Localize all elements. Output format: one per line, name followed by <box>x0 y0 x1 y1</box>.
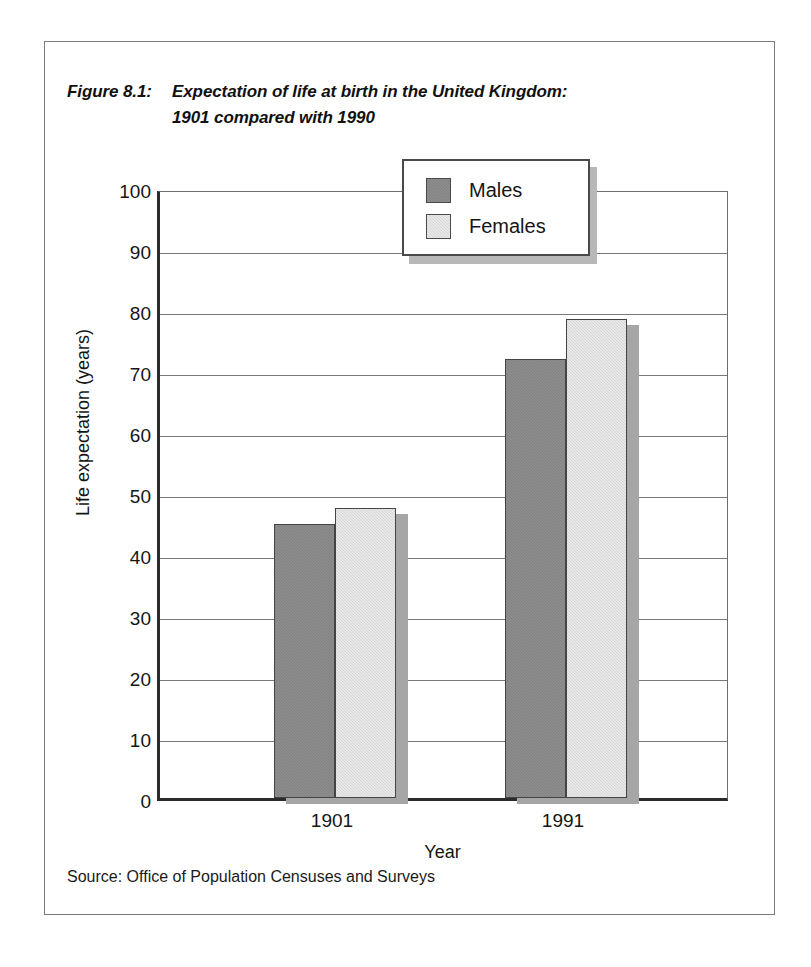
figure-frame: Figure 8.1:Expectation of life at birth … <box>44 41 775 915</box>
y-axis-tick-labels: 1009080706050403020100 <box>93 191 151 801</box>
x-axis-tick-label: 1901 <box>252 810 412 832</box>
y-axis-tick-label: 80 <box>99 304 151 323</box>
bar-females-1901 <box>335 508 396 798</box>
y-axis-tick-label: 20 <box>99 670 151 689</box>
y-axis-tick-label: 0 <box>99 792 151 811</box>
source-note: Source: Office of Population Censuses an… <box>67 868 435 886</box>
bar-females-1991 <box>566 319 627 798</box>
legend-item-females: Females <box>426 208 588 244</box>
x-axis-title: Year <box>157 842 728 863</box>
gridline <box>160 680 727 681</box>
gridline <box>160 497 727 498</box>
gridline <box>160 619 727 620</box>
legend-item-males: Males <box>426 172 588 208</box>
y-axis-tick-label: 30 <box>99 609 151 628</box>
bar-males-1901 <box>274 524 335 799</box>
y-axis-tick-label: 100 <box>99 182 151 201</box>
y-axis-title: Life expectation (years) <box>73 278 94 568</box>
y-axis-tick-label: 10 <box>99 731 151 750</box>
legend: MalesFemales <box>402 159 590 256</box>
y-axis-tick-label: 50 <box>99 487 151 506</box>
y-axis-tick-label: 60 <box>99 426 151 445</box>
legend-swatch-icon <box>426 214 451 239</box>
bar-males-1991 <box>505 359 566 798</box>
chart-plot: 1009080706050403020100 Life expectation … <box>45 42 776 916</box>
gridline <box>160 436 727 437</box>
gridline <box>160 375 727 376</box>
gridline <box>160 741 727 742</box>
legend-swatch-icon <box>426 178 451 203</box>
y-axis-tick-label: 70 <box>99 365 151 384</box>
gridline <box>160 558 727 559</box>
plot-area <box>157 191 728 801</box>
gridline <box>160 314 727 315</box>
x-axis-tick-label: 1991 <box>483 810 643 832</box>
legend-label: Females <box>469 215 546 238</box>
legend-label: Males <box>469 179 522 202</box>
y-axis-tick-label: 40 <box>99 548 151 567</box>
y-axis-tick-label: 90 <box>99 243 151 262</box>
